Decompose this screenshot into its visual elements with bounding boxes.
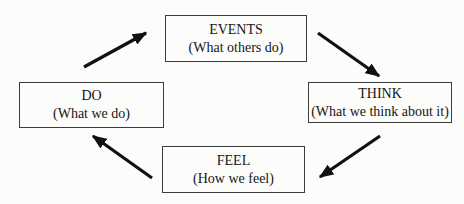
node-events: EVENTS (What others do) (165, 15, 307, 62)
node-think: THINK (What we think about it) (308, 82, 452, 123)
cycle-diagram: EVENTS (What others do) THINK (What we t… (0, 0, 464, 204)
node-do-subtitle: (What we do) (53, 105, 130, 123)
node-feel-title: FEEL (217, 152, 250, 170)
node-think-title: THINK (358, 85, 402, 103)
arrow-feel-to-do (93, 136, 152, 178)
arrow-events-to-think (318, 33, 379, 76)
arrow-do-to-events (84, 33, 146, 67)
node-feel: FEEL (How we feel) (162, 146, 305, 193)
node-events-subtitle: (What others do) (189, 39, 284, 57)
node-events-title: EVENTS (209, 21, 263, 39)
node-do: DO (What we do) (19, 82, 164, 128)
node-feel-subtitle: (How we feel) (193, 170, 274, 188)
node-think-subtitle: (What we think about it) (311, 103, 449, 121)
node-do-title: DO (81, 87, 101, 105)
arrow-think-to-feel (320, 136, 380, 177)
